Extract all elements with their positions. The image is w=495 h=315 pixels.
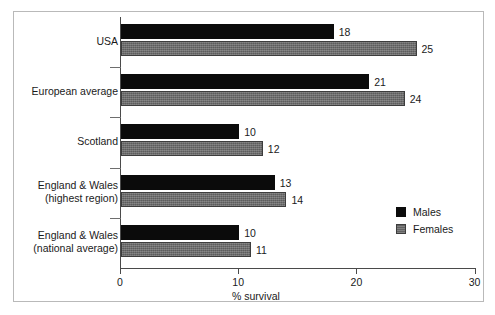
x-axis-title: % survival — [232, 290, 280, 302]
value-axis-line — [120, 268, 475, 269]
value-tick-label: 0 — [117, 276, 123, 288]
category-label: USA — [96, 35, 118, 48]
value-tick — [120, 268, 121, 274]
category-label: England & Wales (highest region) — [38, 179, 118, 204]
value-tick — [238, 268, 239, 274]
bar-chart-plot-area: 0102030 USAEuropean averageScotlandEngla… — [0, 0, 495, 315]
chart-legend: Males Females — [396, 203, 453, 237]
category-label: Scotland — [77, 135, 118, 148]
category-separator-tick — [110, 67, 121, 68]
value-tick — [356, 268, 357, 274]
bar-males — [121, 24, 334, 39]
bar-value-label: 24 — [410, 93, 422, 105]
bar-males — [121, 124, 239, 139]
bar-males — [121, 175, 275, 190]
bar-value-label: 13 — [280, 177, 292, 189]
bar-females — [121, 192, 286, 207]
bar-females — [121, 41, 417, 56]
bar-value-label: 12 — [268, 143, 280, 155]
value-tick-label: 10 — [232, 276, 244, 288]
bar-females — [121, 91, 405, 106]
bar-value-label: 18 — [339, 26, 351, 38]
legend-item-males: Males — [396, 203, 453, 220]
legend-item-females: Females — [396, 220, 453, 237]
value-tick — [475, 268, 476, 274]
bar-males — [121, 225, 239, 240]
legend-label-females: Females — [413, 223, 453, 235]
category-label: England & Wales (national average) — [33, 229, 118, 254]
bar-females — [121, 242, 251, 257]
bar-value-label: 10 — [244, 126, 256, 138]
value-tick-label: 30 — [469, 276, 481, 288]
legend-swatch-males-icon — [396, 207, 406, 217]
category-label: European average — [32, 85, 118, 98]
legend-label-males: Males — [413, 206, 441, 218]
bar-value-label: 10 — [244, 227, 256, 239]
category-separator-tick — [110, 218, 121, 219]
bar-males — [121, 74, 369, 89]
category-separator-tick — [110, 117, 121, 118]
category-separator-tick — [110, 168, 121, 169]
bar-value-label: 14 — [291, 194, 303, 206]
bar-value-label: 21 — [374, 76, 386, 88]
legend-swatch-females-icon — [396, 224, 406, 234]
bar-females — [121, 141, 263, 156]
value-tick-label: 20 — [351, 276, 363, 288]
bar-value-label: 11 — [256, 244, 267, 256]
bar-value-label: 25 — [422, 43, 434, 55]
